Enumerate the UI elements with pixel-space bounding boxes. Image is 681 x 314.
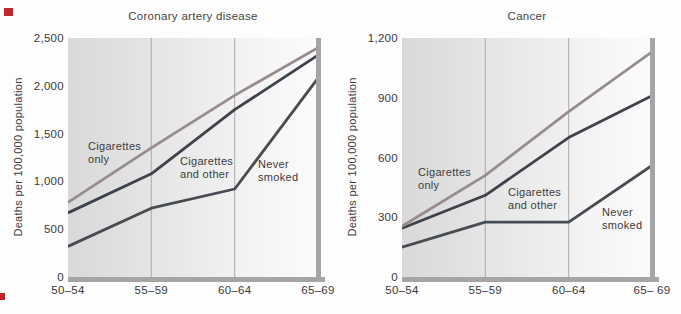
plot-border-right [650, 38, 655, 277]
plot-border-right [316, 38, 321, 277]
series-label-cigarettes-and-other: Cigarettes and other [180, 155, 233, 181]
series-label-line: Never [258, 158, 298, 171]
y-tick: 2,500 [14, 32, 64, 44]
plot-background [402, 38, 652, 277]
plot-border-bottom [402, 277, 659, 282]
plot-area [402, 38, 652, 277]
x-tick: 65–69 [301, 284, 334, 296]
chart-cancer: Cancer Deaths per 100,000 population 0 3… [334, 0, 681, 314]
x-tick: 50–54 [51, 284, 84, 296]
series-label-line: Cigarettes [418, 166, 471, 179]
series-label-cigarettes-and-other: Cigarettes and other [508, 186, 561, 212]
series-label-line: only [418, 179, 471, 192]
series-label-line: smoked [258, 171, 298, 184]
y-axis-label: Deaths per 100,000 population [12, 77, 24, 237]
series-label-line: Cigarettes [88, 140, 141, 153]
y-tick: 1,000 [14, 175, 64, 187]
y-tick: 0 [348, 271, 398, 283]
x-tick: 65– 69 [634, 284, 671, 296]
y-tick: 1,200 [348, 32, 398, 44]
chart-title: Cancer [402, 10, 652, 22]
chart-coronary-artery-disease: Coronary artery disease Deaths per 100,0… [0, 0, 347, 314]
series-label-line: only [88, 153, 141, 166]
x-tick: 50–54 [385, 284, 418, 296]
series-label-cigarettes-only: Cigarettes only [88, 140, 141, 166]
y-tick: 2,000 [14, 80, 64, 92]
series-label-line: Cigarettes [180, 155, 233, 168]
x-tick: 60–64 [218, 284, 251, 296]
series-label-line: smoked [602, 219, 642, 232]
series-label-never-smoked: Never smoked [602, 206, 642, 232]
series-label-line: and other [508, 199, 561, 212]
series-label-cigarettes-only: Cigarettes only [418, 166, 471, 192]
series-label-never-smoked: Never smoked [258, 158, 298, 184]
x-tick: 60–64 [552, 284, 585, 296]
x-tick: 55–59 [135, 284, 168, 296]
y-tick: 600 [348, 152, 398, 164]
plot-canvas [402, 38, 652, 277]
figure-smoking-death-rates: Coronary artery disease Deaths per 100,0… [0, 0, 681, 314]
y-tick: 900 [348, 92, 398, 104]
series-label-line: Cigarettes [508, 186, 561, 199]
y-tick: 1,500 [14, 128, 64, 140]
y-tick: 500 [14, 223, 64, 235]
y-tick: 300 [348, 211, 398, 223]
series-label-line: Never [602, 206, 642, 219]
y-tick: 0 [14, 271, 64, 283]
x-tick: 55–59 [469, 284, 502, 296]
chart-title: Coronary artery disease [68, 10, 318, 22]
plot-border-bottom [68, 277, 325, 282]
series-label-line: and other [180, 168, 233, 181]
